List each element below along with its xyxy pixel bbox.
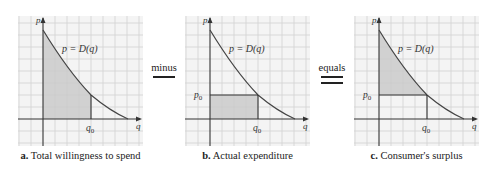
minus-sign-icon [153,76,175,78]
panel-b-actual-expenditure: p q p = D(q) q0 p0 [185,16,310,146]
caption-c-letter: c. [370,150,377,161]
caption-a: a. Total willingness to spend [18,150,143,161]
caption-c-text: Consumer's surplus [380,150,462,161]
minus-label: minus [146,62,182,73]
caption-c: c. Consumer's surplus [354,150,479,161]
curve-label: p = D(q) [397,43,434,55]
equals-sign-bottom-icon [321,82,343,84]
equals-sign-top-icon [321,76,343,78]
curve-label: p = D(q) [61,43,98,55]
caption-b: b. Actual expenditure [185,150,310,161]
minus-operator: minus [146,62,182,78]
y-axis-label: p [202,16,208,25]
caption-b-letter: b. [202,150,210,161]
panel-a-total-willingness: p q p = D(q) q0 [18,16,143,146]
caption-a-text: Total willingness to spend [31,150,141,161]
caption-b-text: Actual expenditure [213,150,293,161]
equals-label: equals [312,62,352,73]
shaded-area [210,95,258,119]
x-axis-label: q [303,121,308,131]
x-axis-label: q [472,121,477,131]
graph-b: p q p = D(q) q0 p0 [185,16,310,146]
graph-c: p q p = D(q) q0 p0 [354,16,479,146]
x-axis-label: q [136,121,141,131]
equals-operator: equals [312,62,352,84]
y-axis-label: p [371,16,377,25]
graph-a: p q p = D(q) q0 [18,16,143,146]
panel-c-consumer-surplus: p q p = D(q) q0 p0 [354,16,479,146]
y-axis-label: p [35,16,41,25]
curve-label: p = D(q) [228,43,265,55]
caption-a-letter: a. [20,150,28,161]
